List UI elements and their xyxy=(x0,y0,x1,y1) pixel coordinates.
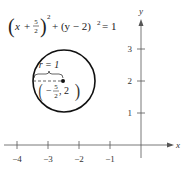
circle-graph: x y −4 −3 −2 −1 1 2 3 r = 1 ( − 5 2 , 2 … xyxy=(0,0,182,175)
svg-text:2: 2 xyxy=(47,13,51,21)
radius-label: r = 1 xyxy=(39,59,60,70)
svg-text:2: 2 xyxy=(54,92,58,100)
svg-text:): ) xyxy=(75,81,80,101)
svg-text:−: − xyxy=(46,85,52,96)
circle-equation: ( x + 5 2 ) 2 + (y − 2) 2 = 1 xyxy=(8,13,116,38)
svg-text:(: ( xyxy=(39,81,43,102)
center-point xyxy=(61,79,65,83)
x-tick-label: −4 xyxy=(12,154,22,164)
radius-brace xyxy=(34,71,63,78)
svg-text:= 1: = 1 xyxy=(102,20,116,32)
x-tick-label: −3 xyxy=(43,154,53,164)
x-axis-label: x xyxy=(175,140,180,150)
svg-text:+ (y − 2): + (y − 2) xyxy=(52,20,91,33)
svg-text:, 2: , 2 xyxy=(59,85,69,96)
y-ticks: 1 2 3 xyxy=(128,44,146,118)
y-axis-label: y xyxy=(138,6,143,16)
svg-text:x: x xyxy=(14,20,20,32)
x-axis-arrow-icon xyxy=(167,143,174,148)
y-tick-label: 3 xyxy=(128,44,133,54)
y-axis-arrow-icon xyxy=(139,19,144,26)
x-ticks: −4 −3 −2 −1 xyxy=(12,141,115,164)
svg-text:2: 2 xyxy=(34,27,38,35)
svg-text:): ) xyxy=(40,15,47,38)
x-tick-label: −1 xyxy=(105,154,115,164)
center-label: ( − 5 2 , 2 ) xyxy=(39,81,81,102)
svg-text:5: 5 xyxy=(54,83,58,91)
y-tick-label: 2 xyxy=(128,76,133,86)
svg-text:2: 2 xyxy=(97,19,101,27)
x-tick-label: −2 xyxy=(74,154,84,164)
svg-text:5: 5 xyxy=(34,18,38,26)
svg-text:+: + xyxy=(24,20,30,32)
svg-text:(: ( xyxy=(8,15,15,38)
y-tick-label: 1 xyxy=(128,108,133,118)
